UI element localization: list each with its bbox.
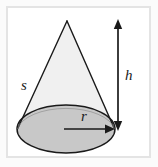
radius-label: r bbox=[81, 108, 87, 124]
height-label: h bbox=[125, 67, 133, 83]
slant-height-label: s bbox=[21, 77, 27, 93]
cone-figure: s h r bbox=[0, 0, 158, 167]
cone-diagram-canvas: s h r bbox=[0, 0, 158, 167]
